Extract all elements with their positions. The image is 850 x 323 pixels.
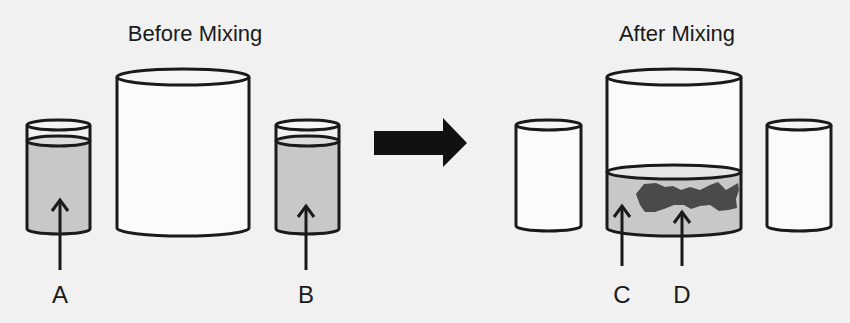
label-d: D: [673, 281, 690, 308]
arrow-d: [674, 212, 690, 266]
mixture-surface: [607, 165, 741, 179]
liquid-surface-b: [276, 136, 339, 146]
process-arrow-icon: [374, 118, 467, 167]
after-mixing-title: After Mixing: [619, 21, 735, 46]
label-a: A: [52, 281, 68, 308]
label-c: C: [613, 281, 630, 308]
label-b: B: [298, 281, 314, 308]
liquid-surface-a: [27, 136, 90, 146]
empty-cup-right: [767, 120, 831, 231]
empty-beaker: [117, 69, 249, 236]
arrow-c: [614, 206, 630, 266]
mixing-diagram: Before Mixing After Mixing A B: [0, 0, 850, 323]
arrow-b: [298, 206, 314, 270]
before-mixing-title: Before Mixing: [128, 21, 263, 46]
empty-cup-left: [516, 120, 581, 231]
